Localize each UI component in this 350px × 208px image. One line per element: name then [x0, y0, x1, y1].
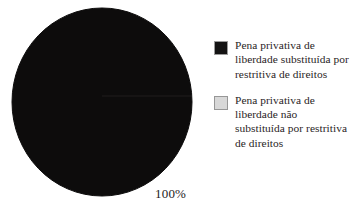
pie-percent-label: 100%	[155, 186, 186, 201]
legend-item-label: Pena privativa de liberdade substituída …	[235, 38, 350, 81]
legend-item-label: Pena privativa de liberdade não substitu…	[235, 93, 350, 150]
filled-square-icon	[214, 41, 228, 55]
pie-chart-figure: 100% Pena privativa de liberdade substit…	[0, 0, 350, 208]
light-square-icon	[214, 96, 228, 110]
legend-item-substituida[interactable]: Pena privativa de liberdade substituída …	[214, 38, 350, 81]
pie-chart-plot-area	[0, 0, 212, 208]
pie-chart-svg	[0, 0, 212, 208]
pie-slice-substituida[interactable]	[12, 8, 192, 196]
chart-legend: Pena privativa de liberdade substituída …	[214, 38, 350, 162]
legend-item-nao-substituida[interactable]: Pena privativa de liberdade não substitu…	[214, 93, 350, 150]
